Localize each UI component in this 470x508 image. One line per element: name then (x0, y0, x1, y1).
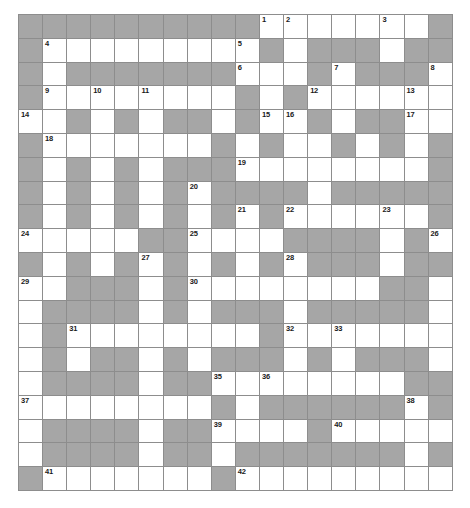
crossword-open-cell[interactable] (308, 467, 332, 491)
crossword-open-cell[interactable] (259, 419, 283, 443)
crossword-open-cell[interactable] (139, 157, 163, 181)
crossword-open-cell[interactable] (91, 324, 115, 348)
crossword-open-cell[interactable] (139, 324, 163, 348)
crossword-open-cell[interactable] (67, 38, 91, 62)
crossword-open-cell[interactable]: 14 (19, 110, 43, 134)
crossword-open-cell[interactable] (43, 157, 67, 181)
crossword-open-cell[interactable] (19, 348, 43, 372)
crossword-open-cell[interactable] (211, 276, 235, 300)
crossword-open-cell[interactable] (139, 205, 163, 229)
crossword-open-cell[interactable] (428, 348, 452, 372)
crossword-open-cell[interactable] (139, 371, 163, 395)
crossword-open-cell[interactable] (67, 348, 91, 372)
crossword-open-cell[interactable] (308, 181, 332, 205)
crossword-open-cell[interactable] (380, 324, 404, 348)
crossword-open-cell[interactable] (308, 205, 332, 229)
crossword-open-cell[interactable] (380, 157, 404, 181)
crossword-open-cell[interactable] (115, 38, 139, 62)
crossword-open-cell[interactable] (91, 252, 115, 276)
crossword-open-cell[interactable]: 33 (332, 324, 356, 348)
crossword-open-cell[interactable]: 15 (259, 110, 283, 134)
crossword-open-cell[interactable] (356, 15, 380, 39)
crossword-open-cell[interactable] (235, 229, 259, 253)
crossword-open-cell[interactable] (259, 467, 283, 491)
crossword-open-cell[interactable] (428, 324, 452, 348)
crossword-open-cell[interactable] (43, 229, 67, 253)
crossword-open-cell[interactable]: 11 (139, 86, 163, 110)
crossword-open-cell[interactable]: 35 (211, 371, 235, 395)
crossword-open-cell[interactable] (284, 467, 308, 491)
crossword-open-cell[interactable] (139, 419, 163, 443)
crossword-open-cell[interactable]: 4 (43, 38, 67, 62)
crossword-open-cell[interactable] (332, 276, 356, 300)
crossword-open-cell[interactable] (380, 252, 404, 276)
crossword-open-cell[interactable] (404, 15, 428, 39)
crossword-open-cell[interactable] (115, 324, 139, 348)
crossword-open-cell[interactable] (235, 324, 259, 348)
crossword-open-cell[interactable] (404, 467, 428, 491)
crossword-open-cell[interactable] (284, 157, 308, 181)
crossword-open-cell[interactable]: 26 (428, 229, 452, 253)
crossword-open-cell[interactable] (163, 133, 187, 157)
crossword-open-cell[interactable]: 38 (404, 395, 428, 419)
crossword-open-cell[interactable] (356, 205, 380, 229)
crossword-open-cell[interactable] (235, 371, 259, 395)
crossword-open-cell[interactable]: 36 (259, 371, 283, 395)
crossword-open-cell[interactable]: 16 (284, 110, 308, 134)
crossword-open-cell[interactable] (187, 300, 211, 324)
crossword-open-cell[interactable] (284, 419, 308, 443)
crossword-open-cell[interactable] (115, 467, 139, 491)
crossword-open-cell[interactable] (19, 324, 43, 348)
crossword-open-cell[interactable] (428, 419, 452, 443)
crossword-open-cell[interactable] (356, 467, 380, 491)
crossword-open-cell[interactable] (163, 86, 187, 110)
crossword-open-cell[interactable]: 39 (211, 419, 235, 443)
crossword-open-cell[interactable] (308, 371, 332, 395)
crossword-open-cell[interactable] (380, 86, 404, 110)
crossword-open-cell[interactable] (211, 324, 235, 348)
crossword-open-cell[interactable]: 9 (43, 86, 67, 110)
crossword-open-cell[interactable] (380, 38, 404, 62)
crossword-open-cell[interactable] (356, 324, 380, 348)
crossword-open-cell[interactable] (404, 133, 428, 157)
crossword-open-cell[interactable] (115, 133, 139, 157)
crossword-open-cell[interactable] (428, 300, 452, 324)
crossword-open-cell[interactable] (284, 133, 308, 157)
crossword-open-cell[interactable]: 10 (91, 86, 115, 110)
crossword-open-cell[interactable] (428, 86, 452, 110)
crossword-open-cell[interactable] (332, 205, 356, 229)
crossword-open-cell[interactable] (308, 133, 332, 157)
crossword-open-cell[interactable] (43, 395, 67, 419)
crossword-open-cell[interactable] (187, 86, 211, 110)
crossword-open-cell[interactable] (139, 395, 163, 419)
crossword-open-cell[interactable] (356, 157, 380, 181)
crossword-open-cell[interactable] (259, 229, 283, 253)
crossword-open-cell[interactable]: 29 (19, 276, 43, 300)
crossword-open-cell[interactable] (211, 110, 235, 134)
crossword-open-cell[interactable] (115, 395, 139, 419)
crossword-open-cell[interactable] (259, 157, 283, 181)
crossword-open-cell[interactable] (308, 157, 332, 181)
crossword-open-cell[interactable] (428, 467, 452, 491)
crossword-open-cell[interactable] (235, 419, 259, 443)
crossword-open-cell[interactable] (187, 38, 211, 62)
crossword-open-cell[interactable] (187, 252, 211, 276)
crossword-open-cell[interactable] (332, 157, 356, 181)
crossword-open-cell[interactable]: 3 (380, 15, 404, 39)
crossword-open-cell[interactable]: 5 (235, 38, 259, 62)
crossword-open-cell[interactable]: 23 (380, 205, 404, 229)
crossword-open-cell[interactable]: 41 (43, 467, 67, 491)
crossword-open-cell[interactable]: 8 (428, 62, 452, 86)
crossword-open-cell[interactable] (163, 324, 187, 348)
crossword-open-cell[interactable] (43, 276, 67, 300)
crossword-open-cell[interactable] (139, 181, 163, 205)
crossword-open-cell[interactable] (187, 395, 211, 419)
crossword-open-cell[interactable] (187, 324, 211, 348)
crossword-open-cell[interactable] (332, 15, 356, 39)
crossword-open-cell[interactable] (356, 86, 380, 110)
crossword-open-cell[interactable] (380, 467, 404, 491)
crossword-open-cell[interactable] (284, 371, 308, 395)
crossword-open-cell[interactable] (404, 419, 428, 443)
crossword-open-cell[interactable]: 6 (235, 62, 259, 86)
crossword-open-cell[interactable] (235, 133, 259, 157)
